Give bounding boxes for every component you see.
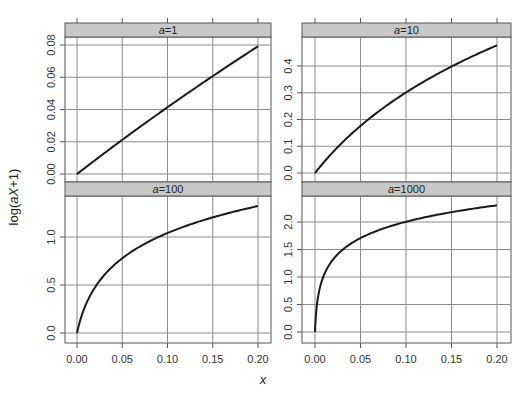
- x-tick-label: 0.05: [350, 353, 371, 365]
- lattice-chart: 0.000.020.040.060.08a=10.00.10.20.30.4a=…: [0, 0, 527, 402]
- strip-label: a=1000: [388, 183, 425, 195]
- strip-label: a=1: [159, 24, 178, 36]
- x-tick-label: 0.20: [486, 353, 507, 365]
- y-tick-label: 0.00: [45, 163, 57, 184]
- x-axis-label: x: [259, 372, 267, 387]
- x-tick-label: 0.00: [66, 353, 87, 365]
- panel-a-100: 0.00.51.00.000.050.100.150.20a=100: [45, 182, 271, 365]
- x-tick-label: 0.15: [202, 353, 223, 365]
- strip-label: a=10: [394, 24, 419, 36]
- y-tick-label: 1.5: [282, 242, 294, 257]
- x-tick-label: 0.20: [247, 353, 268, 365]
- x-tick-label: 0.15: [441, 353, 462, 365]
- y-tick-label: 1.0: [45, 229, 57, 244]
- strip-label: a=100: [153, 183, 184, 195]
- y-tick-label: 0.2: [282, 112, 294, 127]
- y-tick-label: 0.5: [45, 277, 57, 292]
- panel-a-10: 0.00.10.20.30.4a=10: [282, 18, 511, 182]
- x-tick-label: 0.10: [395, 353, 416, 365]
- y-tick-label: 0.06: [45, 67, 57, 88]
- y-tick-label: 2.0: [282, 214, 294, 229]
- y-tick-label: 0.5: [282, 297, 294, 312]
- x-tick-label: 0.05: [112, 353, 133, 365]
- y-tick-label: 0.1: [282, 139, 294, 154]
- x-tick-label: 0.10: [157, 353, 178, 365]
- panel-a-1000: 0.00.51.01.52.00.000.050.100.150.20a=100…: [282, 182, 511, 365]
- y-tick-label: 0.04: [45, 99, 57, 120]
- y-tick-label: 0.3: [282, 85, 294, 100]
- panel-a-1: 0.000.020.040.060.08a=1: [45, 18, 271, 185]
- y-tick-label: 0.0: [45, 325, 57, 340]
- y-tick-label: 0.02: [45, 131, 57, 152]
- y-tick-label: 0.0: [282, 324, 294, 339]
- x-tick-label: 0.00: [304, 353, 325, 365]
- y-tick-label: 0.08: [45, 34, 57, 55]
- y-tick-label: 0.4: [282, 58, 294, 73]
- y-tick-label: 0.0: [282, 165, 294, 180]
- y-tick-label: 1.0: [282, 269, 294, 284]
- y-axis-label: log(aX+1): [6, 169, 21, 226]
